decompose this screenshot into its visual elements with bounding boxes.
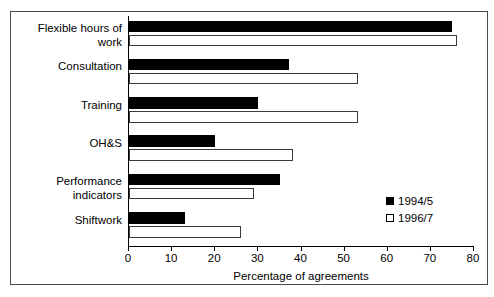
x-axis-tick-label: 0	[108, 252, 148, 264]
legend-label: 1994/5	[398, 195, 433, 207]
category-label: Flexible hours of work	[0, 22, 122, 49]
x-axis-tick-label: 10	[151, 252, 191, 264]
plot-area: Flexible hours of work Consultation Trai…	[0, 0, 494, 297]
x-axis-tick-label: 40	[281, 252, 321, 264]
legend-swatch-icon	[386, 197, 394, 205]
x-axis-tick-label: 30	[237, 252, 277, 264]
category-label: Performance indicators	[0, 175, 122, 202]
bar-1996-7	[129, 35, 457, 47]
bar-1994-5	[129, 59, 289, 71]
x-axis-tick	[344, 246, 345, 251]
chart-legend: 1994/5 1996/7	[386, 192, 433, 226]
category-row: Training	[0, 93, 494, 131]
category-row: Flexible hours of work	[0, 16, 494, 54]
x-axis-tick	[214, 246, 215, 251]
x-axis-title: Percentage of agreements	[128, 270, 474, 282]
bar-1996-7	[129, 226, 241, 238]
bar-1994-5	[129, 174, 280, 186]
category-row: OH&S	[0, 131, 494, 169]
category-label: Consultation	[0, 60, 122, 74]
x-axis-tick	[171, 246, 172, 251]
bar-1994-5	[129, 97, 258, 109]
x-axis-tick	[128, 246, 129, 251]
bar-1996-7	[129, 73, 358, 85]
x-axis-tick	[387, 246, 388, 251]
bar-1994-5	[129, 135, 215, 147]
category-label: OH&S	[0, 137, 122, 151]
category-label: Shiftwork	[0, 214, 122, 228]
x-axis-tick-label: 50	[324, 252, 364, 264]
legend-label: 1996/7	[398, 212, 433, 224]
legend-swatch-icon	[386, 214, 394, 222]
x-axis-tick-label: 60	[367, 252, 407, 264]
x-axis-tick	[473, 246, 474, 251]
bar-1996-7	[129, 188, 254, 200]
category-label: Training	[0, 99, 122, 113]
legend-item-1996-7: 1996/7	[386, 209, 433, 226]
x-axis-tick	[430, 246, 431, 251]
x-axis-tick-label: 20	[194, 252, 234, 264]
category-row: Consultation	[0, 54, 494, 92]
bar-1996-7	[129, 111, 358, 123]
x-axis-tick-label: 80	[453, 252, 493, 264]
legend-item-1994-5: 1994/5	[386, 192, 433, 209]
bar-1994-5	[129, 212, 185, 224]
x-axis-tick	[257, 246, 258, 251]
x-axis-tick	[301, 246, 302, 251]
bar-1994-5	[129, 21, 452, 33]
x-axis-tick-label: 70	[410, 252, 450, 264]
bar-1996-7	[129, 149, 293, 161]
chart-figure: Flexible hours of work Consultation Trai…	[0, 0, 494, 297]
